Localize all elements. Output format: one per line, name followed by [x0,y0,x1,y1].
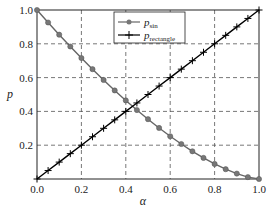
y-tick-label: 0.6 [19,72,33,84]
y-tick-label: 0.8 [19,38,33,50]
asterisk-dot-marker-icon [68,44,73,49]
x-tick-label: 0.2 [75,183,89,195]
asterisk-dot-marker-icon [234,171,239,176]
asterisk-dot-marker-icon [168,134,173,139]
asterisk-dot-marker-icon [190,149,195,154]
y-tick-label: 0.4 [19,105,33,117]
asterisk-dot-marker-icon [223,167,228,172]
asterisk-dot-marker-icon [34,7,39,12]
asterisk-dot-marker-icon [127,20,132,25]
asterisk-dot-marker-icon [79,55,84,60]
asterisk-dot-marker-icon [57,32,62,37]
x-tick-label: 0.6 [163,183,177,195]
y-tick-label: 1.0 [19,4,33,16]
asterisk-dot-marker-icon [157,125,162,130]
legend: psin prectangle [114,12,185,43]
asterisk-dot-marker-icon [145,117,150,122]
asterisk-dot-marker-icon [245,175,250,180]
asterisk-dot-marker-icon [134,107,139,112]
x-tick-label: 0.4 [119,183,133,195]
asterisk-dot-marker-icon [46,20,51,25]
asterisk-dot-marker-icon [201,155,206,160]
asterisk-dot-marker-icon [112,88,117,93]
asterisk-dot-marker-icon [179,141,184,146]
x-tick-label: 1.0 [252,183,266,195]
asterisk-dot-marker-icon [123,98,128,103]
asterisk-dot-marker-icon [101,77,106,82]
asterisk-dot-marker-icon [212,161,217,166]
chart: 0.00.20.40.60.81.00.20.40.60.81.0 α p ps… [0,0,271,217]
y-axis-label: p [6,87,13,101]
asterisk-dot-marker-icon [256,176,261,181]
x-axis-label: α [140,194,147,208]
x-tick-label: 0.0 [30,183,44,195]
y-tick-label: 0.2 [19,139,33,151]
x-tick-label: 0.8 [208,183,222,195]
asterisk-dot-marker-icon [90,67,95,72]
